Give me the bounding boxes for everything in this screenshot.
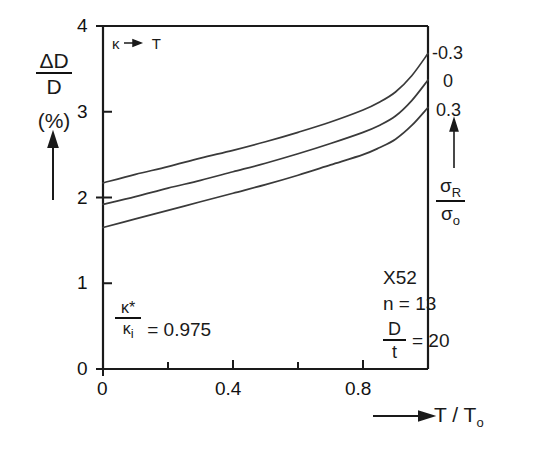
y-axis-arrow — [49, 133, 58, 200]
kappa-ratio-numerator: κ* — [115, 300, 141, 319]
kappa-ratio-value: = 0.975 — [141, 320, 211, 339]
dt-denominator: t — [383, 341, 406, 361]
x-axis-arrow — [373, 412, 433, 421]
y-axis-label-fraction: ΔD D — [36, 50, 71, 97]
sigma-ratio-denominator: σo — [436, 202, 465, 227]
y-tick-label-3: 3 — [77, 102, 88, 121]
y-axis-label-numerator: ΔD — [36, 50, 71, 74]
sigma-ratio-fraction: σR σo — [436, 176, 465, 227]
x-axis-label-subscript: o — [476, 415, 483, 430]
sigma-r-subscript: R — [452, 185, 461, 200]
parameter-block: X52 n = 13 D t = 20 — [383, 268, 450, 368]
sigma-r-symbol: σ — [440, 175, 452, 196]
kappa-ratio-denominator-subscript: i — [131, 326, 134, 341]
kappa-ratio-denominator-symbol: κ — [123, 320, 131, 337]
x-tick-label-0-8: 0.8 — [345, 379, 371, 398]
y-tick-label-0: 0 — [77, 359, 88, 378]
legend-sigma-ratio: σR σo — [436, 176, 465, 227]
kappa-symbol: κ — [112, 35, 120, 52]
y-axis-label-denominator: D — [36, 74, 71, 97]
dt-value: = 20 — [406, 331, 450, 350]
y-tick-label-1: 1 — [77, 273, 88, 292]
annotation-kappa-ratio: κ* κi = 0.975 — [115, 300, 211, 340]
curve-label-negative-0-3: -0.3 — [432, 44, 463, 62]
dt-numerator: D — [383, 320, 406, 341]
sigma-o-subscript: o — [453, 213, 460, 228]
chart-figure: ΔD D (%) 4 3 2 1 0 0 0.4 0.8 T / To κ T … — [0, 0, 533, 457]
dt-fraction: D t — [383, 320, 406, 361]
x-axis-label: T / To — [434, 404, 484, 429]
kappa-ratio-fraction: κ* κi — [115, 300, 141, 340]
y-axis-label: ΔD D — [18, 50, 90, 97]
data-curves — [103, 53, 428, 227]
x-tick-label-0-4: 0.4 — [215, 379, 241, 398]
x-axis-label-main: T / T — [434, 403, 476, 426]
param-n: n = 13 — [383, 294, 450, 313]
y-tick-label-4: 4 — [77, 16, 88, 35]
curve-label-0: 0 — [443, 72, 453, 90]
kappa-target-symbol: T — [152, 35, 161, 52]
legend-arrow — [450, 119, 458, 168]
x-tick-label-0: 0 — [97, 379, 108, 398]
param-grade: X52 — [383, 268, 450, 287]
sigma-o-symbol: σ — [441, 203, 453, 224]
kappa-ratio-denominator: κi — [115, 319, 141, 340]
y-tick-label-2: 2 — [77, 188, 88, 207]
curve-label-0-3: 0.3 — [436, 101, 461, 119]
sigma-ratio-numerator: σR — [436, 176, 465, 202]
param-dt: D t = 20 — [383, 320, 450, 361]
annotation-kappa-to-t: κ T — [112, 36, 161, 51]
